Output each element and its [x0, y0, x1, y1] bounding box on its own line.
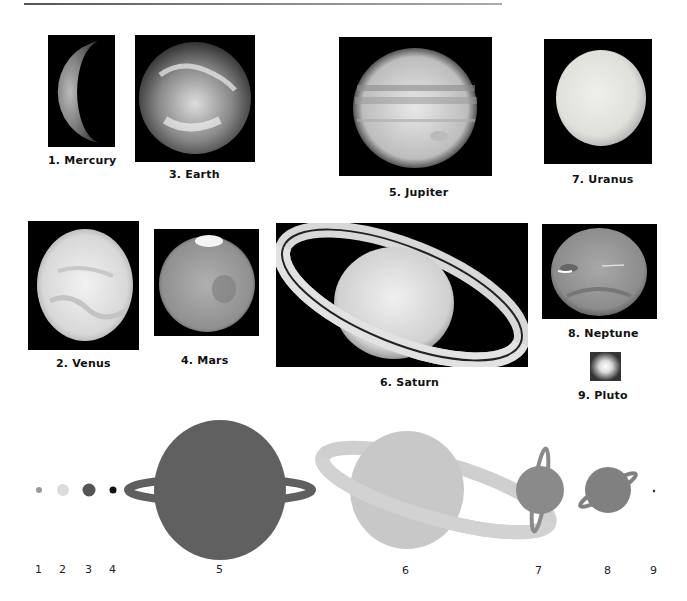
mercury-caption: 1. Mercury [48, 154, 116, 167]
saturn-image-icon [276, 223, 528, 367]
earth-caption: 3. Earth [169, 168, 220, 181]
mercury-photo [48, 35, 115, 147]
mars-photo [154, 229, 259, 336]
jupiter-photo [339, 37, 492, 176]
uranus-photo [544, 39, 652, 164]
uranus-image-icon [544, 39, 652, 164]
scale-number-2: 2 [59, 563, 66, 576]
jupiter-caption: 5. Jupiter [389, 186, 448, 199]
pluto-image-icon [590, 352, 621, 381]
jupiter-image-icon [339, 37, 492, 176]
uranus-caption: 7. Uranus [572, 173, 633, 186]
mercury-image-icon [48, 35, 115, 147]
venus-image-icon [28, 221, 139, 350]
neptune-image-icon [542, 224, 657, 319]
venus-photo [28, 221, 139, 350]
pluto-photo [590, 352, 621, 381]
scale-diagram: 1 2 3 4 5 6 7 8 9 [0, 410, 687, 601]
neptune-caption: 8. Neptune [568, 327, 639, 340]
saturn-caption: 6. Saturn [380, 376, 439, 389]
earth-image-icon [135, 35, 255, 162]
scale-number-7: 7 [535, 564, 542, 577]
scale-number-4: 4 [109, 563, 116, 576]
scale-number-3: 3 [85, 563, 92, 576]
earth-photo [135, 35, 255, 162]
venus-caption: 2. Venus [56, 357, 111, 370]
scale-number-6: 6 [402, 564, 409, 577]
scale-number-8: 8 [604, 564, 611, 577]
mars-caption: 4. Mars [181, 354, 228, 367]
neptune-photo [542, 224, 657, 319]
mars-image-icon [154, 229, 259, 336]
scale-number-5: 5 [216, 563, 223, 576]
pluto-caption: 9. Pluto [578, 389, 628, 402]
saturn-photo [276, 223, 528, 367]
scale-number-9: 9 [650, 564, 657, 577]
scale-number-1: 1 [35, 563, 42, 576]
planet-size-comparison-icon [0, 410, 687, 601]
top-rule [24, 3, 502, 5]
